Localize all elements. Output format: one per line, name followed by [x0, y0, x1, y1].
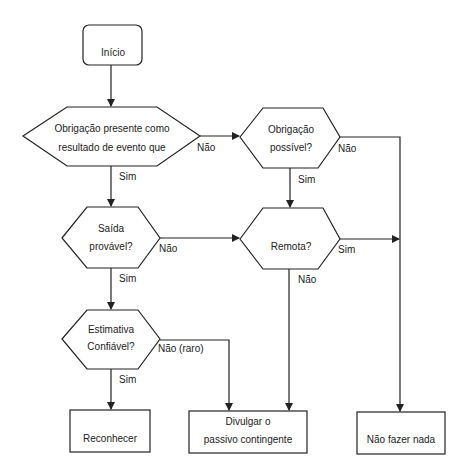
present-obligation-line1: Obrigação presente como [54, 123, 169, 135]
edge-label-possible-no: Não [338, 143, 356, 155]
edge-label-present-no: Não [197, 142, 215, 154]
remote-label: Remota? [271, 241, 312, 253]
do-nothing-box [357, 412, 445, 454]
edge-label-remote-yes: Sim [338, 244, 355, 256]
do-nothing-label: Não fazer nada [367, 434, 435, 446]
present-obligation-decision [23, 107, 200, 166]
possible-obligation-decision [240, 108, 340, 168]
reliable-estimate-decision [62, 310, 160, 369]
edge-label-estimate-yes: Sim [119, 374, 136, 386]
edge-label-probable-yes: Sim [119, 273, 136, 285]
probable-outflow-line1: Saída [98, 223, 124, 235]
possible-obligation-line1: Obrigação [268, 124, 314, 136]
edge-label-estimate-no: Não (raro) [158, 343, 204, 355]
possible-obligation-line2: possível? [270, 142, 312, 154]
edge-label-possible-yes: Sim [298, 174, 315, 186]
edge-label-present-yes: Sim [119, 171, 136, 183]
recognize-box [70, 410, 150, 452]
edge-label-remote-no: Não [298, 274, 316, 286]
flowchart-canvas [0, 0, 466, 471]
recognize-label: Reconhecer [83, 433, 137, 445]
probable-outflow-line2: provável? [89, 241, 132, 253]
disclose-line2: passivo contingente [204, 434, 292, 446]
present-obligation-line2: resultado de evento que [58, 142, 165, 154]
start-node [83, 25, 142, 65]
start-label: Início [101, 47, 125, 59]
disclose-line1: Divulgar o [225, 416, 270, 428]
remote-decision [240, 208, 340, 269]
reliable-estimate-line2: Confiável? [87, 341, 134, 353]
edge-label-probable-no: Não [159, 243, 177, 255]
probable-outflow-decision [62, 207, 160, 268]
reliable-estimate-line1: Estimativa [88, 324, 134, 336]
